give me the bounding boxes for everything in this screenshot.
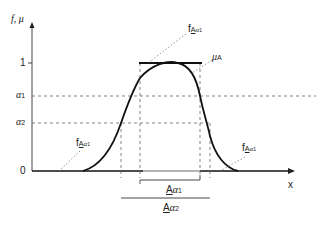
fuzzy-set-diagram [0,0,316,227]
membership-function-curve [83,62,238,171]
f-top-leader [148,34,186,63]
tick-label-alpha2: α2 [16,117,25,127]
f-label-top: fAα1 [188,24,202,34]
y-axis-arrow-icon [30,22,35,28]
x-axis-label: x [288,180,293,190]
tick-label-alpha1: α1 [16,90,25,100]
f-left-leader [59,151,80,171]
mu-leader [192,60,212,73]
y-axis-label: f, μ [11,14,24,24]
f-label-left: fAα1 [76,138,90,148]
alpha2-cut-label: Aα2 [163,203,179,213]
x-axis-arrow-icon [288,168,295,174]
alpha1-cut-label: Aα1 [166,185,182,195]
f-label-right: fAα1 [242,143,256,153]
membership-label: μA [212,52,222,62]
tick-label-one: 1 [20,58,26,68]
tick-label-zero: 0 [20,166,26,176]
